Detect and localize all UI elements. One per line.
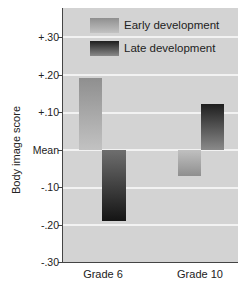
bar-early-grade10 — [178, 150, 201, 176]
y-tick-label: -.20 — [0, 219, 59, 231]
y-tick-label: -.10 — [0, 181, 59, 193]
x-tick-label-grade10: Grade 10 — [177, 268, 223, 280]
y-tick-label: +.20 — [0, 69, 59, 81]
bar-late-grade10 — [201, 104, 224, 150]
bar-early-grade6 — [79, 78, 102, 150]
x-axis — [62, 262, 238, 263]
bar-late-grade6 — [102, 150, 126, 221]
y-axis — [62, 8, 63, 262]
y-axis-title: Body image score — [10, 106, 22, 194]
y-tick-label: +.10 — [0, 106, 59, 118]
bar-chart: +.30 +.20 +.10 Mean -.10 -.20 -.30 Body … — [0, 0, 245, 286]
gridline — [63, 74, 238, 76]
legend-swatch-late — [90, 41, 119, 56]
x-tick-label-grade6: Grade 6 — [83, 268, 123, 280]
gridline — [63, 36, 238, 38]
gridline — [63, 187, 238, 189]
y-tick-label: -.30 — [0, 256, 59, 268]
gridline — [63, 224, 238, 226]
y-tick-label: Mean — [0, 144, 59, 156]
y-tick-label: +.30 — [0, 31, 59, 43]
legend-label-late: Late development — [124, 41, 215, 56]
legend-label-early: Early development — [124, 18, 219, 33]
legend-swatch-early — [90, 18, 119, 33]
